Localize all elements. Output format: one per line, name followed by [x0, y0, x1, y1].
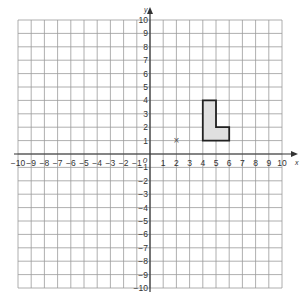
x-tick-label: 2: [174, 158, 179, 168]
y-tick-label: 8: [143, 42, 148, 52]
y-arrow-icon: [147, 7, 153, 14]
y-tick-label: 6: [143, 69, 148, 79]
x-tick-label: 5: [214, 158, 219, 168]
x-tick-labels: −10−9−8−7−6−5−4−3−2−112345678910: [11, 158, 287, 168]
y-tick-label: −6: [138, 229, 148, 239]
x-arrow-icon: [291, 151, 298, 157]
y-tick-label: 5: [143, 82, 148, 92]
coordinate-grid: × xy0 −10−9−8−7−6−5−4−3−2−112345678910 1…: [0, 0, 301, 305]
x-axis-label: x: [294, 159, 299, 166]
x-tick-label: −6: [66, 158, 76, 168]
y-tick-label: −9: [138, 270, 148, 280]
x-tick-label: 10: [277, 158, 287, 168]
y-tick-label: 1: [143, 136, 148, 146]
x-tick-label: 3: [187, 158, 192, 168]
x-tick-label: 8: [253, 158, 258, 168]
l-shape: [203, 100, 229, 140]
y-tick-label: 10: [139, 15, 149, 25]
cross-marker-icon: ×: [173, 135, 179, 146]
x-tick-label: −9: [26, 158, 36, 168]
y-axis-label: y: [143, 6, 148, 14]
x-tick-label: 1: [161, 158, 166, 168]
l-shape-polygon: [203, 100, 229, 140]
x-tick-label: −3: [106, 158, 116, 168]
point-marker: ×: [173, 135, 179, 146]
x-tick-label: −7: [53, 158, 63, 168]
y-tick-label: −7: [138, 243, 148, 253]
y-tick-label: −10: [134, 283, 149, 293]
axes: xy0: [14, 6, 299, 292]
y-tick-label: −1: [138, 162, 148, 172]
y-tick-label: −5: [138, 216, 148, 226]
x-tick-label: 9: [266, 158, 271, 168]
y-tick-label: 7: [143, 55, 148, 65]
y-tick-label: −4: [138, 203, 148, 213]
x-tick-label: −2: [119, 158, 129, 168]
x-tick-label: 6: [227, 158, 232, 168]
x-tick-label: −8: [40, 158, 50, 168]
x-tick-label: −4: [92, 158, 102, 168]
y-tick-label: −8: [138, 256, 148, 266]
y-tick-label: 3: [143, 109, 148, 119]
y-tick-label: 2: [143, 122, 148, 132]
x-tick-label: −10: [11, 158, 26, 168]
x-tick-label: −5: [79, 158, 89, 168]
y-tick-label: −3: [138, 189, 148, 199]
y-tick-label: 4: [143, 95, 148, 105]
y-tick-label: 9: [143, 28, 148, 38]
x-tick-label: 4: [200, 158, 205, 168]
x-tick-label: 7: [240, 158, 245, 168]
y-tick-label: −2: [138, 176, 148, 186]
